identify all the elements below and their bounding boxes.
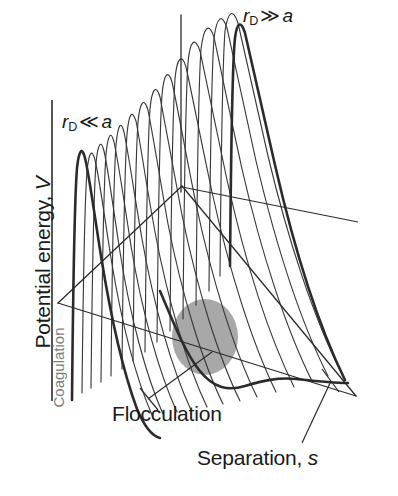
- dlvo-figure: Potential energy, V Coagulation rD≪a rD≫…: [0, 0, 398, 496]
- debye-thick-annotation: rD≫a: [243, 6, 293, 27]
- x-axis-label: Separation, s: [197, 447, 318, 468]
- back-bold-curve: [230, 24, 345, 380]
- debye-thick-compare: a: [282, 5, 293, 26]
- coagulation-label: Coagulation: [51, 308, 66, 428]
- x-axis-label-text: Separation,: [197, 446, 308, 469]
- debye-thin-annotation: rD≪a: [62, 112, 112, 133]
- flocculation-region-shading: [172, 299, 238, 375]
- debye-thin-compare: a: [101, 111, 112, 132]
- debye-thin-relation: ≪: [77, 111, 101, 132]
- y-axis-label-symbol: V: [31, 176, 54, 190]
- perspective-ray-upper: [58, 186, 182, 303]
- debye-thick-relation: ≫: [258, 5, 282, 26]
- separation-leader-line: [302, 381, 331, 443]
- flocculation-label: Flocculation: [112, 403, 222, 424]
- x-axis-label-symbol: s: [308, 446, 318, 469]
